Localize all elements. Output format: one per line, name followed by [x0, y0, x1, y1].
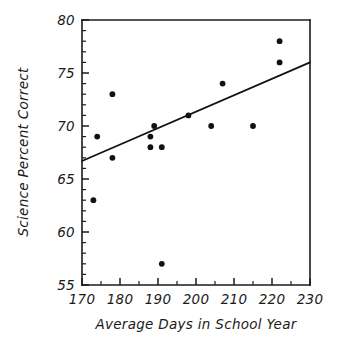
data-points-group — [91, 38, 283, 266]
data-point — [148, 134, 154, 140]
data-point — [186, 113, 192, 119]
data-point — [208, 123, 214, 129]
data-point — [250, 123, 256, 129]
axes-group — [82, 20, 310, 285]
data-point — [220, 81, 226, 87]
regression-line — [82, 62, 310, 161]
data-point — [277, 38, 283, 44]
y-tick-label: 65 — [57, 171, 75, 187]
y-tick-label: 55 — [57, 277, 75, 293]
x-tick-label: 180 — [107, 291, 134, 307]
data-point — [110, 91, 116, 97]
x-tick-label: 220 — [259, 291, 286, 307]
y-tick-label: 60 — [57, 224, 75, 240]
data-point — [148, 144, 154, 150]
x-tick-label: 170 — [69, 291, 96, 307]
ticks-group — [82, 20, 310, 285]
data-point — [159, 261, 165, 267]
data-point — [110, 155, 116, 161]
x-tick-label: 190 — [145, 291, 172, 307]
tick-labels-group: 170180190200210220230556065707580 — [57, 12, 323, 307]
x-tick-label: 200 — [183, 291, 210, 307]
x-tick-label: 230 — [297, 291, 324, 307]
scatter-plot-figure: 170180190200210220230556065707580 Averag… — [0, 0, 343, 342]
data-point — [151, 123, 157, 129]
data-point — [91, 197, 97, 203]
data-point — [277, 60, 283, 66]
plot-canvas: 170180190200210220230556065707580 Averag… — [0, 0, 343, 342]
data-point — [94, 134, 100, 140]
x-axis-title: Average Days in School Year — [94, 316, 297, 332]
data-point — [159, 144, 165, 150]
x-tick-label: 210 — [221, 291, 248, 307]
y-tick-label: 70 — [57, 118, 75, 134]
y-tick-label: 75 — [57, 65, 75, 81]
y-axis-title: Science Percent Correct — [15, 67, 31, 237]
regression-line-group — [82, 62, 310, 161]
y-tick-label: 80 — [57, 12, 75, 28]
